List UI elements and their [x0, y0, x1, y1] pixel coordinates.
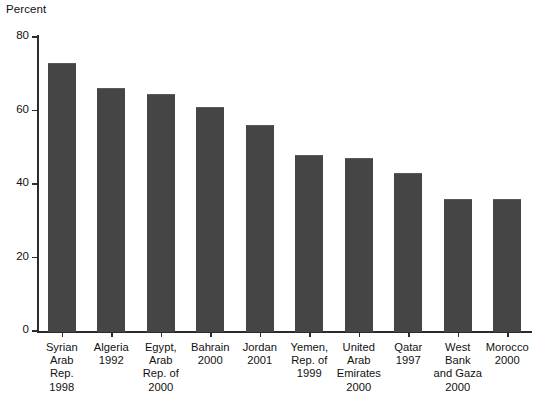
x-axis-category-label: West Bank and Gaza 2000: [433, 341, 483, 394]
y-tick-mark: [32, 257, 38, 259]
x-axis-category-label: United Arab Emirates 2000: [334, 341, 384, 394]
x-axis-category-label: Egypt, Arab Rep. of 2000: [136, 341, 186, 394]
bar: [246, 125, 274, 332]
y-axis-title: Percent: [6, 3, 46, 15]
y-tick-mark: [32, 110, 38, 112]
bar: [196, 107, 224, 332]
x-axis-category-label: Jordan 2001: [235, 341, 285, 367]
bar: [147, 94, 175, 332]
x-axis-category-label: Syrian Arab Rep. 1998: [37, 341, 87, 394]
bar: [493, 199, 521, 332]
y-tick-mark: [32, 36, 38, 38]
bar: [394, 173, 422, 332]
y-tick-mark: [32, 183, 38, 185]
y-tick-label: 80: [16, 29, 29, 41]
bar: [345, 158, 373, 332]
x-axis-category-label: Bahrain 2000: [186, 341, 236, 367]
x-axis-category-label: Qatar 1997: [384, 341, 434, 367]
bar: [444, 199, 472, 332]
bar-chart: Percent 020406080 Syrian Arab Rep. 1998A…: [0, 0, 540, 408]
y-tick-label: 40: [16, 176, 29, 188]
bar: [97, 88, 125, 332]
x-axis-category-label: Algeria 1992: [87, 341, 137, 367]
bar: [295, 155, 323, 332]
y-tick-label: 20: [16, 250, 29, 262]
y-tick-label: 60: [16, 103, 29, 115]
x-axis-category-label: Morocco 2000: [483, 341, 533, 367]
y-tick-mark: [32, 330, 38, 332]
bar: [48, 63, 76, 332]
x-axis-category-label: Yemen, Rep. of 1999: [285, 341, 335, 381]
y-tick-label: 0: [23, 323, 29, 335]
